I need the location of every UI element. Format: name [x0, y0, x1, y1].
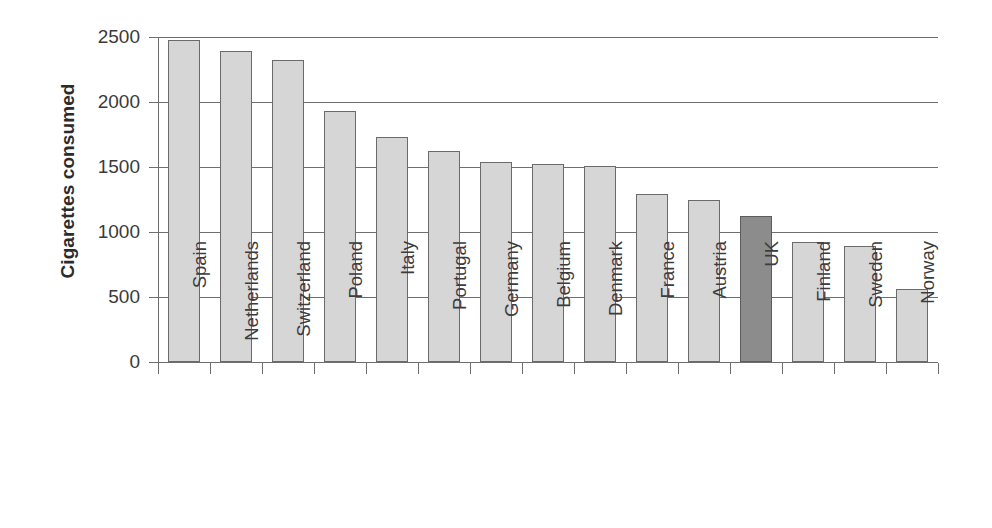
x-tick-mark — [678, 363, 679, 374]
x-label-netherlands: Netherlands — [243, 241, 262, 381]
y-tick-mark — [149, 232, 158, 233]
x-tick-mark — [210, 363, 211, 374]
y-tick-mark — [149, 297, 158, 298]
x-tick-mark — [730, 363, 731, 374]
bar-chart: Cigarettes consumed 25002000150010005000… — [0, 0, 992, 528]
y-tick-mark — [149, 102, 158, 103]
x-label-denmark: Denmark — [607, 241, 626, 381]
x-label-finland: Finland — [815, 241, 834, 381]
x-tick-mark — [262, 363, 263, 374]
x-label-austria: Austria — [711, 241, 730, 381]
y-axis-title: Cigarettes consumed — [57, 31, 79, 331]
x-tick-mark — [158, 363, 159, 374]
x-tick-mark — [366, 363, 367, 374]
x-tick-mark — [314, 363, 315, 374]
x-label-belgium: Belgium — [555, 241, 574, 381]
x-label-sweden: Sweden — [867, 241, 886, 381]
y-tick-label: 1000 — [80, 222, 140, 241]
y-tick-mark — [149, 37, 158, 38]
y-tick-label: 1500 — [80, 157, 140, 176]
y-tick-label: 0 — [80, 352, 140, 371]
x-tick-mark — [834, 363, 835, 374]
x-label-poland: Poland — [347, 241, 366, 381]
x-tick-mark — [418, 363, 419, 374]
x-label-france: France — [659, 241, 678, 381]
x-tick-mark — [574, 363, 575, 374]
x-tick-mark — [522, 363, 523, 374]
y-tick-label: 500 — [80, 287, 140, 306]
x-tick-mark — [626, 363, 627, 374]
x-label-uk: UK — [763, 241, 782, 381]
y-tick-mark — [149, 167, 158, 168]
x-label-spain: Spain — [191, 241, 210, 381]
x-tick-mark — [470, 363, 471, 374]
x-label-portugal: Portugal — [451, 241, 470, 381]
x-label-norway: Norway — [919, 241, 938, 381]
x-label-italy: Italy — [399, 241, 418, 381]
y-tick-mark — [149, 362, 158, 363]
x-label-switzerland: Switzerland — [295, 241, 314, 381]
y-tick-label: 2000 — [80, 92, 140, 111]
x-tick-mark — [782, 363, 783, 374]
x-label-germany: Germany — [503, 241, 522, 381]
x-tick-mark — [938, 363, 939, 374]
x-tick-mark — [886, 363, 887, 374]
y-tick-label: 2500 — [80, 27, 140, 46]
